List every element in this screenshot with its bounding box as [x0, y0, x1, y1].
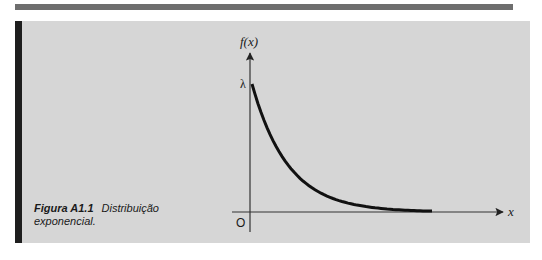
caption-line1: Distribuição [102, 202, 159, 214]
figure-caption: Figura A1.1Distribuição exponencial. [34, 202, 159, 228]
y-tick-label-lambda: λ [240, 77, 246, 91]
caption-line2: exponencial. [34, 215, 159, 228]
x-axis-label: x [507, 204, 514, 219]
figure-label: Figura A1.1 [34, 202, 94, 214]
series-curve-f-x [252, 84, 432, 211]
y-axis-label: f(x) [240, 34, 258, 49]
origin-label: O [236, 216, 245, 230]
